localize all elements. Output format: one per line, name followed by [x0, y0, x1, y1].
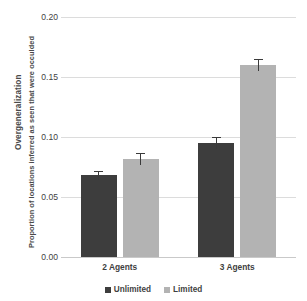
bar: [198, 143, 234, 257]
plot-area: [61, 17, 296, 257]
y-axis-tick-label: 0.10: [22, 132, 58, 142]
legend-label: Limited: [173, 285, 202, 294]
y-axis-tick-labels: 0.000.050.100.150.20: [18, 17, 58, 257]
x-axis-tick-label: 3 Agents: [220, 262, 255, 272]
error-bar-line: [98, 171, 99, 181]
legend-item: Unlimited: [105, 285, 151, 294]
y-axis-tick-label: 0.15: [22, 72, 58, 82]
gridline: [61, 257, 296, 258]
error-bar-line: [216, 137, 217, 149]
error-bar-cap-top: [254, 59, 263, 60]
legend-label: Unlimited: [114, 285, 151, 294]
error-bar: [81, 171, 117, 181]
legend-item: Limited: [164, 285, 202, 294]
x-axis-tick-labels: 2 Agents3 Agents: [61, 262, 296, 276]
bar: [123, 159, 159, 257]
bar: [240, 65, 276, 257]
error-bar: [240, 59, 276, 71]
error-bar-line: [140, 153, 141, 165]
legend-swatch-icon: [164, 287, 170, 293]
y-axis-tick-label: 0.20: [22, 12, 58, 22]
y-axis-tick-label: 0.00: [22, 252, 58, 262]
bar: [81, 175, 117, 257]
y-axis-tick-label: 0.05: [22, 192, 58, 202]
x-axis-tick-label: 2 Agents: [102, 262, 137, 272]
error-bar-line: [258, 59, 259, 71]
gridline: [61, 17, 296, 18]
bar-chart: Overgeneralization Proportion of locatio…: [0, 0, 307, 301]
error-bar-cap-top: [212, 137, 221, 138]
error-bar: [123, 153, 159, 165]
error-bar-cap-top: [136, 153, 145, 154]
legend-swatch-icon: [105, 287, 111, 293]
error-bar-cap-top: [94, 171, 103, 172]
error-bar: [198, 137, 234, 149]
chart-legend: UnlimitedLimited: [0, 285, 307, 294]
